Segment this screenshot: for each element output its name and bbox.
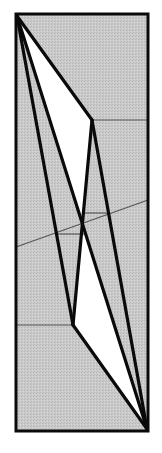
- fold-diagram: [0, 0, 162, 453]
- diagram-canvas: [0, 0, 162, 453]
